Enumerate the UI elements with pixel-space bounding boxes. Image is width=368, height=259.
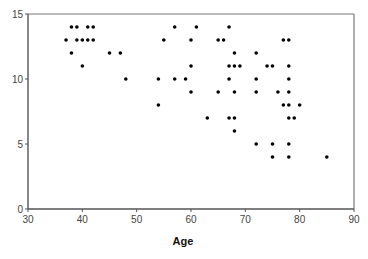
data-point (206, 116, 210, 120)
data-point (75, 25, 79, 29)
data-point (227, 25, 231, 29)
data-point (162, 38, 166, 42)
data-point (91, 25, 95, 29)
data-point (292, 116, 296, 120)
data-point (271, 142, 275, 146)
data-point (227, 77, 231, 81)
data-point (287, 64, 291, 68)
data-point (108, 51, 112, 55)
data-point (81, 64, 85, 68)
data-point (254, 51, 258, 55)
x-tick-label: 70 (240, 214, 252, 225)
data-point (271, 64, 275, 68)
data-point (64, 38, 68, 42)
data-point (173, 77, 177, 81)
data-point (282, 38, 286, 42)
data-point (216, 90, 220, 94)
data-point (287, 103, 291, 107)
data-point (119, 51, 123, 55)
data-point (70, 51, 74, 55)
plot-area (28, 14, 354, 209)
x-axis-title: Age (173, 235, 194, 247)
data-point (189, 90, 193, 94)
scatter-chart: 30405060708090 051015 Age (0, 0, 368, 259)
y-axis: 051015 (12, 9, 28, 215)
data-point (287, 155, 291, 159)
x-tick-label: 90 (348, 214, 360, 225)
data-point (238, 64, 242, 68)
data-point (276, 90, 280, 94)
data-point (265, 64, 269, 68)
x-tick-label: 60 (185, 214, 197, 225)
x-tick-label: 50 (131, 214, 143, 225)
data-point (86, 38, 90, 42)
data-point (124, 77, 128, 81)
data-point (233, 90, 237, 94)
data-point (195, 25, 199, 29)
data-point (157, 77, 161, 81)
data-point (287, 142, 291, 146)
data-point (254, 77, 258, 81)
data-point (254, 90, 258, 94)
data-point (325, 155, 329, 159)
data-point (233, 64, 237, 68)
data-point (287, 77, 291, 81)
data-point (254, 142, 258, 146)
x-tick-label: 80 (294, 214, 306, 225)
data-point (75, 38, 79, 42)
data-point (91, 38, 95, 42)
data-point (271, 155, 275, 159)
data-point (81, 38, 85, 42)
data-point (173, 25, 177, 29)
data-point (216, 38, 220, 42)
x-tick-label: 30 (22, 214, 34, 225)
data-point (233, 51, 237, 55)
data-point (287, 38, 291, 42)
data-point (189, 64, 193, 68)
y-tick-label: 15 (12, 9, 24, 20)
data-point (287, 90, 291, 94)
data-point (157, 103, 161, 107)
y-tick-label: 5 (17, 139, 23, 150)
data-point (227, 116, 231, 120)
data-point (227, 64, 231, 68)
data-point (233, 116, 237, 120)
y-tick-label: 10 (12, 74, 24, 85)
data-point (184, 77, 188, 81)
data-point (86, 25, 90, 29)
data-point (189, 38, 193, 42)
data-point (287, 116, 291, 120)
y-tick-label: 0 (17, 204, 23, 215)
x-tick-label: 40 (77, 214, 89, 225)
data-point (222, 38, 226, 42)
data-point (282, 103, 286, 107)
x-axis: 30405060708090 (22, 209, 360, 225)
data-point (70, 25, 74, 29)
data-point (233, 129, 237, 133)
data-points (64, 25, 328, 159)
data-point (298, 103, 302, 107)
